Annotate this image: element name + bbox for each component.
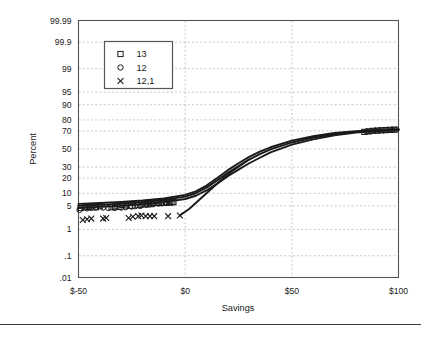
y-tick-label: 99 bbox=[62, 64, 72, 74]
y-tick-label: 50 bbox=[62, 144, 72, 154]
legend-label: 12,1 bbox=[137, 76, 155, 86]
y-tick-label: 20 bbox=[62, 173, 72, 183]
y-tick-label: 99.9 bbox=[55, 37, 72, 47]
y-tick-label: 70 bbox=[62, 126, 72, 136]
x-tick-label: $-50 bbox=[70, 286, 87, 296]
y-tick-label: .01 bbox=[60, 273, 72, 283]
legend-label: 12 bbox=[137, 63, 147, 73]
y-tick-label: 95 bbox=[62, 87, 72, 97]
fit-lower bbox=[79, 130, 399, 208]
chart-canvas: 99.9999.999959080705030201051.1.01 $-50$… bbox=[0, 0, 421, 337]
y-axis-title: Percent bbox=[28, 133, 38, 165]
series-12-1 bbox=[80, 213, 183, 223]
y-tick-label: 30 bbox=[62, 162, 72, 172]
y-tick-label: 80 bbox=[62, 115, 72, 125]
probability-plot-figure: 99.9999.999959080705030201051.1.01 $-50$… bbox=[0, 0, 421, 337]
y-tick-label: 90 bbox=[62, 100, 72, 110]
x-axis-tick-labels: $-50$0$50$100 bbox=[70, 286, 408, 296]
x-tick-label: $100 bbox=[389, 286, 408, 296]
x-axis-title: Savings bbox=[222, 303, 255, 313]
x-tick-label: $0 bbox=[180, 286, 190, 296]
y-tick-label: 5 bbox=[67, 201, 72, 211]
y-axis-tick-labels: 99.9999.999959080705030201051.1.01 bbox=[50, 16, 72, 283]
x-tick-label: $50 bbox=[285, 286, 300, 296]
data-point-markers bbox=[77, 127, 399, 223]
y-tick-label: 1 bbox=[67, 224, 72, 234]
y-tick-label: 99.99 bbox=[50, 16, 72, 26]
series-13 bbox=[78, 127, 397, 210]
footer-divider bbox=[0, 324, 421, 325]
legend-label: 13 bbox=[137, 49, 147, 59]
chart-legend[interactable]: 131212,1 bbox=[105, 42, 173, 89]
y-tick-label: .1 bbox=[64, 251, 71, 261]
y-tick-label: 10 bbox=[62, 188, 72, 198]
fit-cross-tail bbox=[180, 160, 249, 216]
